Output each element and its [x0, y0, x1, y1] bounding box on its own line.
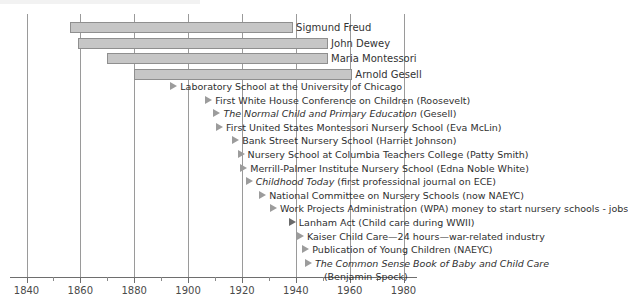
x-tick-label-1900: 1900	[163, 285, 213, 296]
lifespan-bar	[70, 22, 294, 33]
event-marker-triangle-icon	[246, 177, 253, 185]
x-tick-label-1960: 1960	[325, 285, 375, 296]
event-marker-triangle-icon	[259, 191, 266, 199]
event-label: Bank Street Nursery School (Harriet John…	[242, 134, 456, 147]
event-marker-triangle-icon	[205, 96, 212, 104]
lifespan-bar-label: Arnold Gesell	[355, 69, 421, 80]
event-label: The Normal Child and Primary Education (…	[223, 107, 456, 120]
event-marker-triangle-icon	[270, 204, 277, 212]
lifespan-bar-label: Maria Montessori	[331, 53, 417, 64]
x-tick-1860	[80, 277, 81, 283]
gridline-1860	[80, 14, 81, 277]
x-minor-tick-1890	[161, 277, 162, 281]
event-marker-triangle-icon	[297, 232, 304, 240]
x-minor-tick-1850	[53, 277, 54, 281]
lifespan-bar	[107, 53, 328, 64]
x-tick-1940	[296, 277, 297, 283]
x-minor-tick-1870	[107, 277, 108, 281]
lifespan-bar	[134, 69, 352, 80]
event-label: Laboratory School at the University of C…	[180, 80, 402, 93]
event-label: First White House Conference on Children…	[215, 94, 470, 107]
event-label: Work Projects Administration (WPA) money…	[280, 202, 628, 215]
x-tick-label-1920: 1920	[217, 285, 267, 296]
x-tick-1880	[134, 277, 135, 283]
event-marker-triangle-icon	[216, 123, 223, 131]
x-minor-tick-1930	[269, 277, 270, 281]
x-tick-1840	[27, 277, 28, 283]
event-label: First United States Montessori Nursery S…	[226, 121, 501, 134]
lifespan-bar-label: Sigmund Freud	[296, 22, 371, 33]
event-marker-triangle-icon	[213, 109, 220, 117]
x-tick-1900	[188, 277, 189, 283]
x-tick-label-1980: 1980	[379, 285, 429, 296]
event-label-continuation: (Benjamin Spock)	[324, 270, 408, 283]
event-label: Publication of Young Children (NAEYC)	[312, 243, 492, 256]
event-label: Childhood Today (first professional jour…	[256, 175, 496, 188]
x-tick-label-1840: 1840	[2, 285, 52, 296]
lifespan-bar-label: John Dewey	[331, 38, 390, 49]
event-marker-triangle-icon	[305, 259, 312, 267]
x-minor-tick-1910	[215, 277, 216, 281]
x-tick-1920	[242, 277, 243, 283]
event-label: Nursery School at Columbia Teachers Coll…	[248, 148, 529, 161]
event-marker-triangle-icon	[289, 218, 296, 226]
event-label: National Committee on Nursery Schools (n…	[269, 189, 524, 202]
x-tick-label-1860: 1860	[55, 285, 105, 296]
event-marker-triangle-icon	[232, 136, 239, 144]
event-marker-triangle-icon	[170, 82, 177, 90]
event-label: The Common Sense Book of Baby and Child …	[315, 257, 549, 270]
event-label: Merrill-Palmer Institute Nursery School …	[250, 162, 529, 175]
lifespan-bar	[78, 38, 328, 49]
x-tick-label-1880: 1880	[109, 285, 159, 296]
event-label: Kaiser Child Care—24 hours—war-related i…	[307, 230, 545, 243]
event-marker-triangle-icon	[238, 150, 245, 158]
event-marker-triangle-icon	[302, 245, 309, 253]
event-marker-triangle-icon	[240, 164, 247, 172]
event-label: Lanham Act (Child care during WWII)	[299, 216, 475, 229]
gridline-1840	[27, 14, 28, 277]
x-tick-label-1940: 1940	[271, 285, 321, 296]
